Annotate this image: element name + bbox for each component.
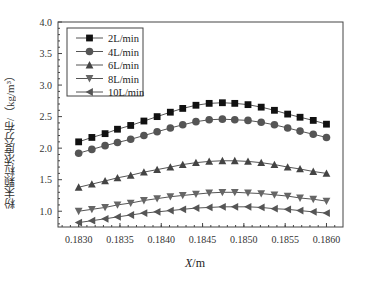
square-marker: [86, 35, 93, 42]
triangle-left-marker: [153, 208, 160, 216]
square-marker: [297, 114, 304, 121]
triangle-left-marker: [88, 217, 95, 225]
circle-marker: [88, 146, 96, 154]
series-line: [79, 103, 327, 142]
triangle-left-marker: [271, 205, 278, 213]
triangle-left-marker: [101, 215, 108, 223]
series-8l-min: [75, 189, 331, 215]
circle-marker: [86, 48, 94, 56]
circle-marker: [192, 118, 200, 126]
series-line: [79, 119, 327, 153]
series-6l-min: [75, 157, 331, 191]
square-marker: [231, 100, 238, 107]
y-tick-label: 1.5: [40, 174, 53, 185]
x-tick-label: 0.1860: [313, 234, 341, 245]
circle-marker: [271, 121, 279, 129]
circle-marker: [296, 127, 304, 135]
x-tick-label: 0.1840: [148, 234, 176, 245]
triangle-left-marker: [218, 203, 225, 211]
circle-marker: [309, 130, 317, 138]
triangle-down-marker: [75, 208, 83, 215]
x-axis-unit: /m: [192, 256, 205, 270]
square-marker: [193, 102, 200, 109]
triangle-left-marker: [296, 207, 303, 215]
triangle-left-marker: [257, 204, 264, 212]
circle-marker: [257, 118, 265, 126]
square-marker: [258, 104, 265, 111]
square-marker: [167, 109, 174, 116]
x-tick-label: 0.1855: [271, 234, 299, 245]
circle-marker: [114, 139, 122, 147]
square-marker: [88, 134, 95, 141]
line-chart: 1.01.52.02.53.03.54.00.18300.18350.18400…: [0, 0, 365, 286]
square-marker: [271, 107, 278, 114]
square-marker: [154, 113, 161, 120]
triangle-left-marker: [309, 208, 316, 216]
circle-marker: [179, 121, 187, 129]
square-marker: [127, 122, 134, 129]
y-axis-label: 粉末颗粒浓度分布/（kg/m³）: [2, 40, 20, 240]
triangle-left-marker: [244, 203, 251, 211]
series-10l-min: [75, 203, 330, 227]
circle-marker: [140, 132, 148, 140]
square-marker: [141, 118, 148, 125]
triangle-left-marker: [284, 205, 291, 213]
circle-marker: [101, 142, 109, 150]
series-2l-min: [75, 99, 330, 145]
square-marker: [310, 117, 317, 124]
circle-marker: [284, 124, 292, 132]
square-marker: [284, 111, 291, 118]
square-marker: [323, 121, 330, 128]
triangle-down-marker: [323, 198, 331, 205]
y-tick-label: 3.0: [40, 80, 53, 91]
triangle-left-marker: [323, 209, 330, 217]
square-marker: [245, 101, 252, 108]
triangle-left-marker: [127, 211, 134, 219]
series-4l-min: [75, 115, 330, 157]
circle-marker: [244, 117, 252, 125]
legend-label: 8L/min: [108, 74, 140, 85]
circle-marker: [231, 116, 239, 124]
circle-marker: [205, 116, 213, 124]
square-marker: [114, 126, 121, 133]
circle-marker: [219, 115, 227, 123]
circle-marker: [167, 124, 175, 132]
x-tick-label: 0.1835: [106, 234, 134, 245]
y-tick-label: 2.5: [40, 111, 53, 122]
x-tick-label: 0.1850: [230, 234, 258, 245]
square-marker: [179, 105, 186, 112]
series-line: [79, 161, 327, 187]
triangle-left-marker: [140, 209, 147, 217]
legend-label: 4L/min: [108, 47, 140, 58]
circle-marker: [323, 134, 331, 142]
triangle-left-marker: [166, 207, 173, 215]
triangle-left-marker: [192, 204, 199, 212]
legend-label: 6L/min: [108, 60, 140, 71]
legend-label: 10L/min: [108, 87, 145, 98]
circle-marker: [75, 149, 83, 157]
square-marker: [219, 99, 226, 106]
y-tick-label: 4.0: [40, 17, 53, 28]
square-marker: [75, 138, 82, 145]
triangle-left-marker: [231, 203, 238, 211]
legend-label: 2L/min: [108, 33, 140, 44]
legend: 2L/min4L/min6L/min8L/min10L/min: [67, 28, 145, 98]
circle-marker: [127, 136, 135, 144]
triangle-left-marker: [114, 213, 121, 221]
data-series: [75, 99, 331, 226]
triangle-left-marker: [205, 204, 212, 212]
x-axis-label: X/m: [185, 256, 205, 271]
square-marker: [206, 100, 213, 107]
y-tick-label: 2.0: [40, 143, 53, 154]
triangle-left-marker: [179, 205, 186, 213]
x-tick-label: 0.1830: [65, 234, 93, 245]
square-marker: [102, 130, 109, 137]
circle-marker: [153, 128, 161, 136]
y-tick-label: 1.0: [40, 206, 53, 217]
y-tick-label: 3.5: [40, 48, 53, 59]
x-tick-label: 0.1845: [189, 234, 217, 245]
